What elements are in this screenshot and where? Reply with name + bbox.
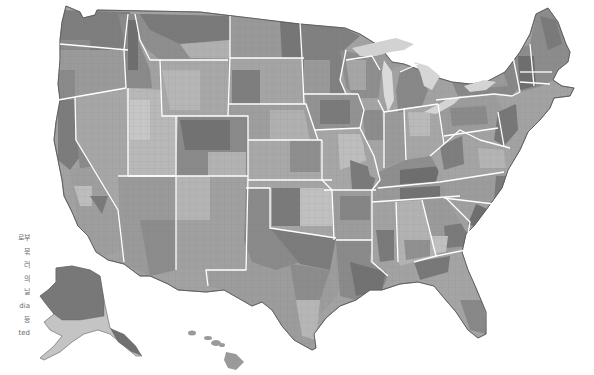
hawaii — [188, 331, 244, 371]
us-county-map — [0, 0, 594, 375]
alaska — [40, 266, 142, 360]
